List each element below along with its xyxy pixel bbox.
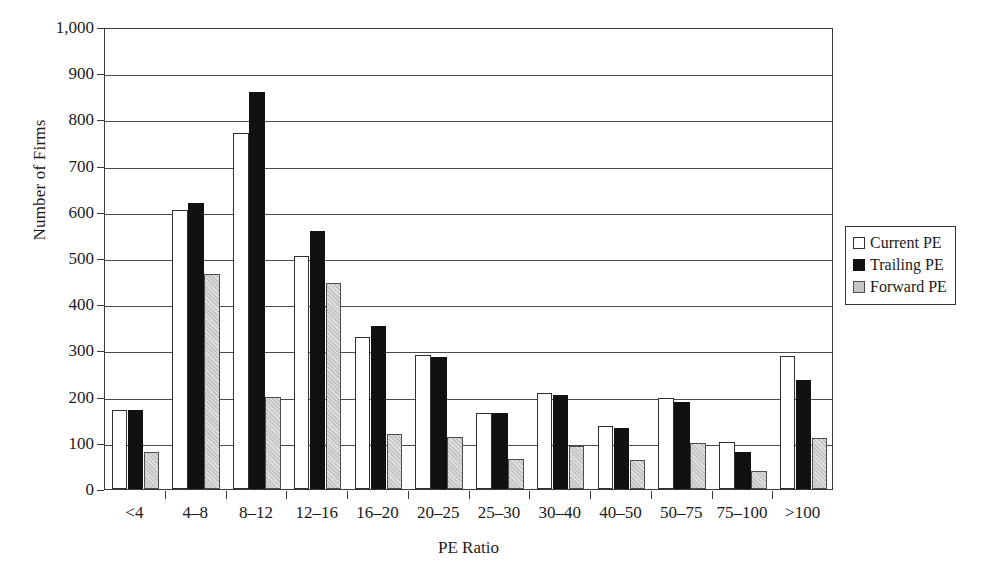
x-axis-title: PE Ratio [104,538,833,558]
x-tick-mark [408,491,409,499]
bar [658,398,674,489]
bar [431,357,447,489]
bar-group [652,29,713,489]
x-tick-mark [286,491,287,499]
bar [674,402,690,489]
legend-label: Forward PE [870,279,947,295]
bar-group [348,29,409,489]
y-tick-mark [97,28,104,29]
x-tick-mark [529,491,530,499]
bar [415,355,431,489]
bar [751,471,767,489]
bar [735,452,751,489]
y-tick-label: 1,000 [26,19,94,36]
bar [233,133,249,489]
bar [188,203,204,489]
legend-swatch-icon [853,259,865,271]
bar [553,395,569,489]
x-tick-mark [469,491,470,499]
bar-group [530,29,591,489]
y-tick-mark [97,305,104,306]
bar [172,210,188,490]
bar [598,426,614,489]
bar [249,92,265,489]
bar [355,337,371,489]
legend-item[interactable]: Current PE [853,232,947,254]
y-tick-mark [97,444,104,445]
y-tick-label: 800 [26,111,94,128]
x-tick-mark [347,491,348,499]
bar-group [105,29,166,489]
legend-swatch-icon [853,281,865,293]
legend-swatch-icon [853,237,865,249]
y-tick-label: 300 [26,342,94,359]
x-tick-label: >100 [758,503,848,523]
bar [476,413,492,489]
x-tick-mark [651,491,652,499]
y-tick-label: 400 [26,296,94,313]
bar [310,231,326,489]
bar [796,380,812,489]
bar-group [227,29,288,489]
y-tick-mark [97,259,104,260]
legend: Current PETrailing PEForward PE [845,226,956,305]
y-tick-mark [97,213,104,214]
legend-item[interactable]: Trailing PE [853,254,947,276]
x-tick-mark [590,491,591,499]
bar [326,283,342,490]
bar [492,413,508,489]
legend-label: Trailing PE [870,257,944,273]
y-tick-label: 100 [26,435,94,452]
bar [780,356,796,489]
bar [630,460,646,489]
x-tick-mark [165,491,166,499]
bar [447,437,463,489]
y-tick-mark [97,74,104,75]
y-tick-mark [97,351,104,352]
bar [128,410,144,489]
bar [204,274,220,489]
bar-group [470,29,531,489]
plot-area [104,28,833,490]
y-tick-label: 600 [26,204,94,221]
legend-item[interactable]: Forward PE [853,276,947,298]
bar-group [773,29,834,489]
bar [537,393,553,489]
y-tick-mark [97,490,104,491]
x-tick-mark [712,491,713,499]
y-tick-mark [97,167,104,168]
legend-label: Current PE [870,235,942,251]
bar-group [166,29,227,489]
bar [569,446,585,489]
y-tick-label: 700 [26,158,94,175]
bar-group [713,29,774,489]
bar [387,434,403,489]
bar [812,438,828,489]
bar [690,443,706,489]
bar [371,326,387,489]
y-tick-label: 900 [26,65,94,82]
bar-chart: Number of Firms 1,0009008007006005004003… [0,0,982,574]
bar [265,397,281,489]
bar [294,256,310,489]
y-tick-label: 200 [26,389,94,406]
bar-group [409,29,470,489]
x-tick-mark [772,491,773,499]
bar [614,428,630,489]
bar [719,442,735,489]
bar [508,459,524,489]
bar-group [287,29,348,489]
y-tick-label: 500 [26,250,94,267]
bar-group [591,29,652,489]
y-tick-mark [97,398,104,399]
y-tick-mark [97,120,104,121]
x-tick-mark [226,491,227,499]
bar [144,452,160,489]
bar [112,410,128,489]
y-tick-label: 0 [26,481,94,498]
